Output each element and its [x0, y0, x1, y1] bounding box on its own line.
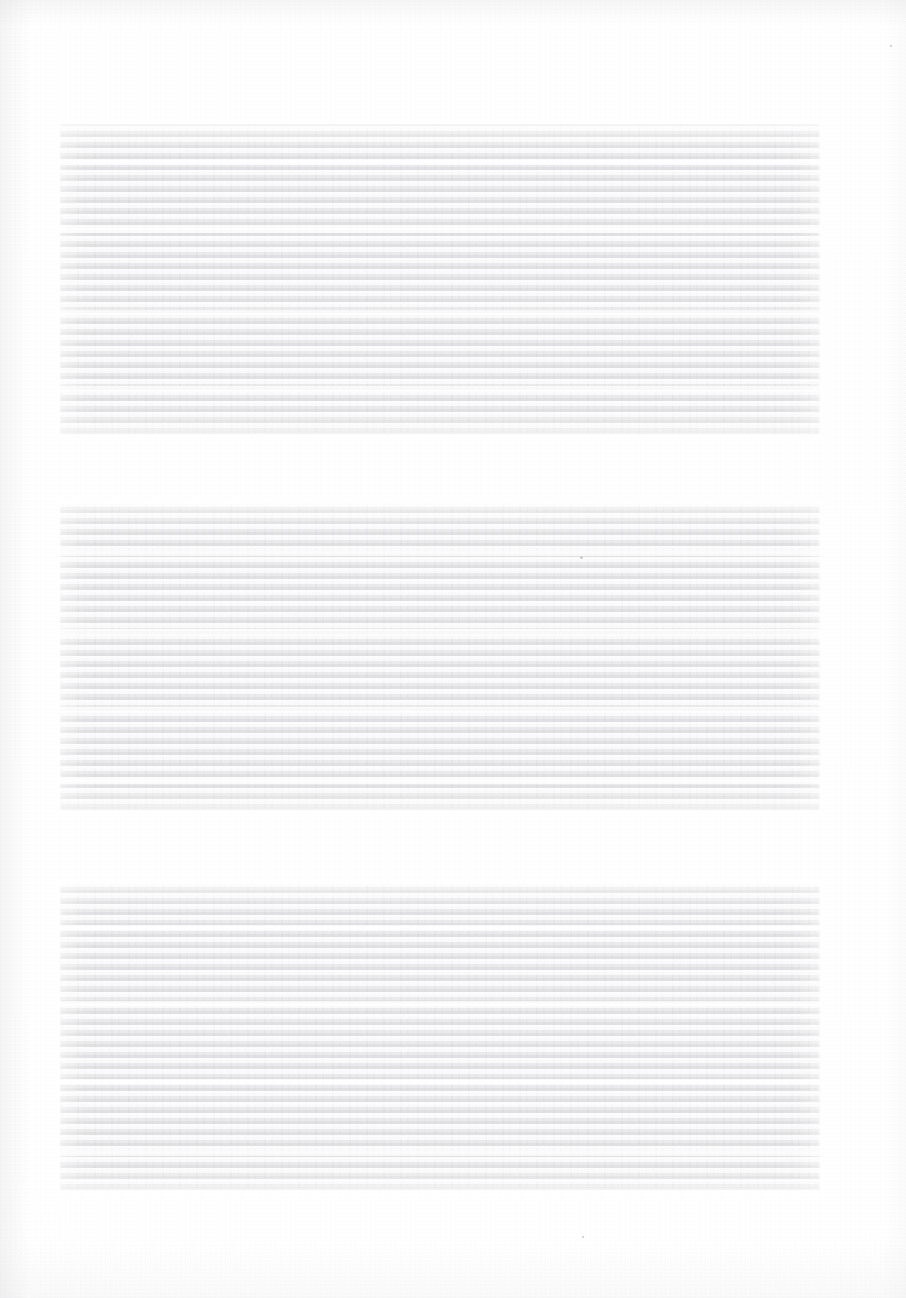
paragraph-gap: [60, 1001, 820, 1006]
text-block-3-content: [59, 882, 60, 883]
paragraph-gap: [60, 1079, 820, 1084]
paragraph-gap: [60, 779, 820, 784]
paragraph-gap: [60, 925, 820, 930]
paragraph-gap: [60, 228, 820, 233]
paragraph-gap: [60, 160, 820, 165]
paragraph-gap: [60, 629, 820, 634]
text-block-2-content: [59, 502, 60, 503]
text-block-2: [60, 503, 820, 812]
text-block-3: [60, 883, 820, 1192]
paragraph-gap: [60, 707, 820, 712]
paragraph-gap: [60, 551, 820, 556]
paragraph-gap: [60, 310, 820, 315]
text-block-1: [60, 124, 820, 436]
paragraph-gap: [60, 386, 820, 391]
text-block-1-content: [59, 123, 60, 124]
scanned-page: [0, 0, 906, 1298]
paragraph-gap: [60, 1151, 820, 1156]
